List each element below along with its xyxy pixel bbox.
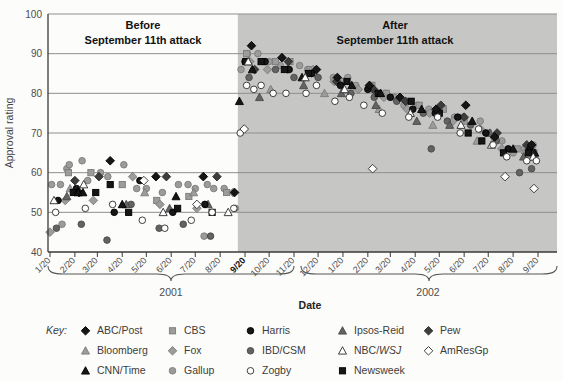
x-tick-label-18: 7/20 [471,255,490,274]
legend-item-label: Ipsos-Reid [354,324,404,336]
point-pew [213,172,222,181]
point-cbs [65,170,71,176]
point-newsweek [465,130,471,136]
legend-column-1: ABC/PostBloombergCNN/Time [80,320,148,380]
legend-item-cbs: CBS [167,320,214,340]
x-tick-label-9: 10/20 [249,255,272,278]
point-zogby [251,86,258,93]
triangle-glyph [82,366,90,373]
point-newsweek [479,138,485,144]
triangle-marker-icon [80,365,91,376]
circle-marker-icon [245,325,256,336]
point-zogby [231,205,238,212]
point-newsweek [281,66,287,72]
point-gallup [296,62,303,69]
legend-item-abc-post: ABC/Post [80,320,148,340]
point-zogby [188,217,195,224]
x-tick-label-3: 4/20 [105,255,124,274]
y-tick-label-70: 70 [31,128,43,139]
year-2001-label: 2001 [159,286,183,298]
point-gallup [201,233,208,240]
point-zogby [303,90,310,97]
point-zogby [109,201,116,208]
legend-item-newsweek: Newsweek [337,360,405,380]
point-gallup [185,181,192,188]
point-gallup [133,185,140,192]
point-ibd-csm [272,66,279,73]
legend-item-label: NBC/WSJ [354,344,401,356]
point-abc-post [152,172,161,181]
legend-item-ibd-csm: IBD/CSM [245,340,306,360]
x-tick-label-8: 9/20 [228,255,247,274]
point-zogby [523,157,530,164]
point-cbs [119,181,125,187]
point-zogby [313,82,320,89]
legend-item-label: AmResGp [440,344,488,356]
legend-item-pew: Pew [423,320,488,340]
triangle-marker-icon [337,325,348,336]
legend-column-2: CBSFoxGallup [167,320,214,380]
point-gallup [66,161,73,168]
triangle-glyph [339,346,347,353]
point-zogby [379,110,386,117]
y-tick-label-100: 100 [25,9,42,20]
y-axis-title: Approval rating [3,98,15,169]
point-harris [454,114,461,121]
y-tick-label-60: 60 [31,167,43,178]
point-gallup [57,181,64,188]
circle-marker-icon [245,365,256,376]
point-ibd-csm [78,221,85,228]
square-glyph [169,327,175,333]
x-tick-label-0: 1/20 [33,255,52,274]
point-gallup [210,185,217,192]
approval-rating-chart: 4050607080901001/202/203/204/205/206/207… [0,0,563,318]
legend-item-gallup: Gallup [167,360,214,380]
point-zogby [475,126,482,133]
legend-item-harris: Harris [245,320,306,340]
legend-column-3: HarrisIBD/CSMZogby [245,320,306,380]
point-zogby [503,154,510,161]
circle-marker-icon [167,365,178,376]
after-region-title-line2: September 11th attack [337,34,455,46]
point-ibd-csm [516,169,523,176]
legend-item-bloomberg: Bloomberg [80,340,148,360]
legend-item-fox: Fox [167,340,214,360]
square-marker-icon [167,325,178,336]
triangle-marker-icon [337,345,348,356]
x-tick-label-19: 8/20 [496,255,515,274]
x-tick-label-7: 8/20 [203,255,222,274]
point-zogby [346,94,353,101]
point-zogby [490,142,497,149]
approval-rating-figure: 4050607080901001/202/203/204/205/206/207… [0,0,563,381]
point-fox [89,196,98,205]
point-newsweek [175,205,181,211]
point-ipsos-reid [63,192,71,199]
legend-key-label: Key: [46,324,67,336]
x-tick-label-1: 2/20 [58,255,77,274]
point-gallup [477,118,484,125]
legend-column-4: Ipsos-ReidNBC/WSJNewsweek [337,320,405,380]
point-zogby [82,205,89,212]
point-abc-post [106,156,115,165]
legend-item-label: Bloomberg [97,344,148,356]
point-ibd-csm [53,225,60,232]
diamond-marker-icon [167,345,178,356]
triangle-glyph [339,326,347,333]
x-tick-label-6: 7/20 [178,255,197,274]
x-tick-label-15: 4/20 [398,255,417,274]
point-zogby [161,225,168,232]
y-tick-label-50: 50 [31,207,43,218]
legend-item-label: CNN/Time [97,364,146,376]
point-zogby [361,102,368,109]
diamond-marker-icon [423,345,434,356]
diamond-glyph [424,326,433,335]
point-gallup [175,181,182,188]
point-zogby [209,209,216,216]
legend-item-cnn-time: CNN/Time [80,360,148,380]
circle-marker-icon [245,345,256,356]
legend-item-label: CBS [184,324,206,336]
point-newsweek [258,59,264,65]
triangle-glyph [82,346,90,353]
diamond-marker-icon [80,325,91,336]
circle-glyph [169,367,176,374]
